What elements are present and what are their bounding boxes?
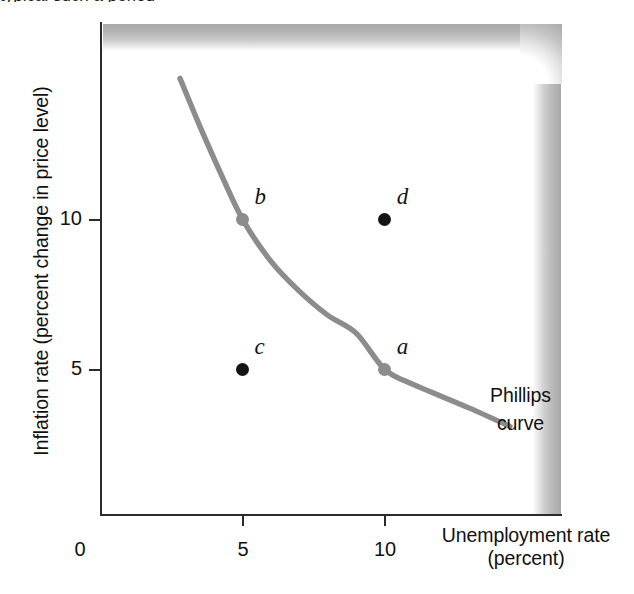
data-point-label-c: c bbox=[255, 334, 265, 360]
y-tick-mark-10 bbox=[89, 219, 100, 221]
plot-corner-shadow bbox=[520, 24, 562, 84]
x-tick-label-10: 10 bbox=[365, 538, 405, 561]
x-axis-title-line2: (percent) bbox=[418, 547, 634, 570]
clipped-caption-fragment: typical such a period bbox=[0, 0, 400, 2]
data-point-label-a: a bbox=[397, 334, 409, 360]
x-axis-title: Unemployment rate (percent) bbox=[418, 524, 634, 570]
x-tick-label-0: 0 bbox=[60, 538, 100, 561]
y-tick-mark-5 bbox=[89, 369, 100, 371]
plot-right-shadow bbox=[533, 24, 561, 514]
plot-area bbox=[100, 22, 562, 515]
phillips-curve-figure: typical such a period Inflation rate (pe… bbox=[0, 0, 634, 594]
data-point-label-d: d bbox=[397, 184, 409, 210]
curve-annotation-line2: curve bbox=[453, 409, 588, 437]
x-axis-title-line1: Unemployment rate bbox=[442, 524, 610, 546]
data-point-label-b: b bbox=[255, 184, 267, 210]
y-axis-title: Inflation rate (percent change in price … bbox=[30, 21, 56, 521]
data-point-c bbox=[236, 363, 249, 376]
x-tick-mark-5 bbox=[242, 515, 244, 526]
y-tick-label-5: 5 bbox=[24, 357, 82, 380]
data-point-b bbox=[236, 213, 249, 226]
x-axis-line bbox=[100, 514, 562, 516]
x-tick-mark-10 bbox=[384, 515, 386, 526]
curve-annotation-line1: Phillips bbox=[453, 381, 588, 409]
phillips-curve-annotation: Phillips curve bbox=[453, 381, 588, 437]
plot-top-shadow bbox=[103, 24, 560, 51]
y-axis-line bbox=[100, 22, 102, 516]
x-tick-label-5: 5 bbox=[223, 538, 263, 561]
y-tick-label-10: 10 bbox=[24, 207, 82, 230]
